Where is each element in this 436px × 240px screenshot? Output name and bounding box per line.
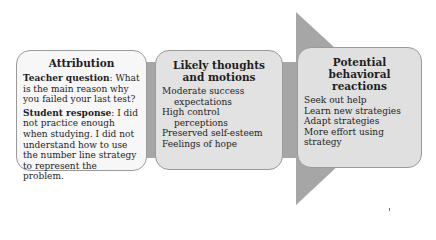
list-item: Moderate success expectations [162,86,276,107]
list-item: Adapt strategies [304,116,415,127]
student-response-text: : I did not practice enough when studyin… [23,108,138,182]
attribution-title: Attribution [23,57,140,69]
thoughts-emotions-box: Likely thoughts and motions Moderate suc… [155,50,283,170]
list-item: Seek out help [304,95,415,106]
behavioral-reactions-title: Potential behavioral reactions [304,56,415,92]
attribution-box: Attribution Teacher question: What is th… [16,50,147,171]
student-response-label: Student response [23,108,111,118]
thoughts-emotions-list: Moderate success expectations High contr… [162,86,276,150]
list-item: High control perceptions [162,107,276,128]
behavioral-reactions-list: Seek out help Learn new strategies Adapt… [304,95,415,148]
thoughts-emotions-title: Likely thoughts and motions [162,59,276,83]
list-item: Feelings of hope [162,139,276,150]
student-response: Student response: I did not practice eno… [23,108,140,182]
stray-mark [389,208,390,211]
teacher-question: Teacher question: What is the main reaso… [23,73,140,105]
list-item: Preserved self-esteem [162,128,276,139]
teacher-question-label: Teacher question [23,73,110,83]
list-item: Learn new strategies [304,106,415,117]
list-item: More effort using strategy [304,127,415,148]
behavioral-reactions-box: Potential behavioral reactions Seek out … [297,47,422,168]
